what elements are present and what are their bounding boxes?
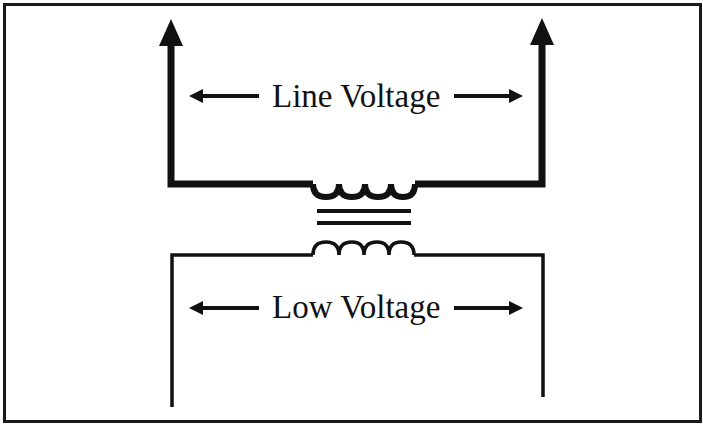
- secondary-coil: [313, 242, 414, 255]
- line-voltage-label: Line Voltage: [272, 80, 440, 113]
- secondary-right-lead: [414, 255, 543, 397]
- low-voltage-label: Low Voltage: [272, 291, 440, 324]
- secondary-left-lead: [172, 255, 313, 407]
- primary-circuit: [171, 44, 542, 197]
- primary-coil: [313, 184, 415, 197]
- line-voltage-right-arrow-icon: [509, 89, 523, 103]
- transformer-diagram: Line Voltage Low Voltage: [0, 0, 703, 425]
- primary-right-terminal-arrow-icon: [530, 18, 554, 45]
- primary-left-terminal-arrow-icon: [159, 19, 183, 46]
- primary-left-lead: [171, 44, 313, 184]
- low-voltage-right-arrow-icon: [509, 301, 523, 315]
- schematic-canvas: [0, 0, 703, 425]
- line-voltage-left-arrow-icon: [189, 89, 203, 103]
- low-voltage-left-arrow-icon: [189, 301, 203, 315]
- primary-right-lead: [415, 44, 542, 184]
- transformer-core: [317, 211, 411, 223]
